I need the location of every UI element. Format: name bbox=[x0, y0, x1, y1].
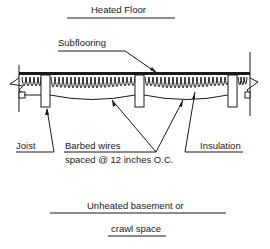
arrowhead-joist bbox=[45, 108, 49, 115]
joist-right bbox=[228, 75, 237, 107]
insulation-bay-1 bbox=[51, 77, 135, 88]
caption-line2: crawl space bbox=[111, 224, 161, 234]
floor-insulation-diagram bbox=[0, 0, 270, 249]
diagram-title: Heated Floor bbox=[91, 5, 146, 15]
subflooring-leader bbox=[58, 51, 157, 73]
arrowhead-barbed-2 bbox=[179, 100, 183, 107]
label-barbed-wires: Barbed wires bbox=[65, 141, 120, 151]
insulation-arc-1 bbox=[50, 95, 135, 100]
insulation-left-bay bbox=[22, 77, 41, 86]
label-insulation: Insulation bbox=[200, 141, 241, 151]
caption-line1: Unheated basement or bbox=[87, 201, 184, 211]
label-subflooring: Subflooring bbox=[58, 38, 106, 48]
insulation-right-bay bbox=[238, 77, 247, 85]
joist-left bbox=[41, 75, 50, 107]
label-joist: Joist bbox=[16, 141, 36, 151]
insulation-bay-2 bbox=[145, 77, 229, 88]
insulation-arc-2 bbox=[144, 95, 228, 100]
label-barbed-wires-spacing: spaced @ 12 inches O.C. bbox=[65, 155, 173, 165]
arrowhead-insulation bbox=[192, 92, 195, 99]
joist-middle bbox=[135, 75, 144, 107]
